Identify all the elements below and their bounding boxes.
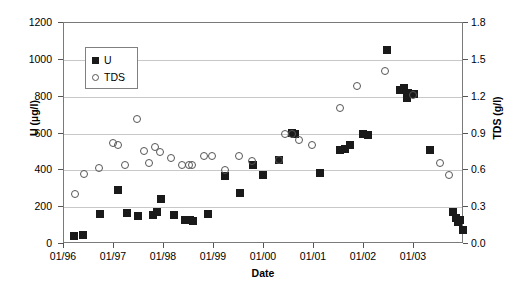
- data-point-u: [383, 46, 391, 54]
- data-point-u: [134, 212, 142, 220]
- y2-axis-tick: [463, 243, 468, 244]
- data-point-tds: [200, 152, 208, 160]
- data-point-tds: [71, 190, 79, 198]
- data-point-tds: [167, 154, 175, 162]
- open-circle-icon: [92, 74, 99, 81]
- y2-axis-tick-label: 0.0: [471, 238, 505, 248]
- data-point-u: [123, 209, 131, 217]
- data-point-tds: [436, 159, 444, 167]
- data-point-tds: [445, 171, 453, 179]
- gridline: [64, 207, 462, 208]
- data-point-tds: [188, 161, 196, 169]
- data-point-u: [259, 171, 267, 179]
- data-point-u: [157, 195, 165, 203]
- data-point-tds: [208, 152, 216, 160]
- scatter-chart: 020040060080010001200 0.00.30.60.91.21.5…: [0, 0, 526, 297]
- data-point-tds: [308, 141, 316, 149]
- data-point-u: [70, 232, 78, 240]
- data-point-tds: [336, 104, 344, 112]
- x-axis-tick-label: 01/03: [383, 251, 443, 262]
- y2-axis-tick: [463, 59, 468, 60]
- legend-item-u: U: [92, 52, 137, 69]
- x-axis-tick: [263, 243, 264, 248]
- data-point-tds: [248, 157, 256, 165]
- data-point-u: [79, 231, 87, 239]
- data-point-tds: [145, 159, 153, 167]
- data-point-u: [426, 146, 434, 154]
- y2-axis-tick: [463, 133, 468, 134]
- data-point-tds: [409, 91, 417, 99]
- x-axis-tick: [413, 243, 414, 248]
- gridline: [64, 134, 462, 135]
- data-point-tds: [288, 130, 296, 138]
- data-point-tds: [95, 164, 103, 172]
- data-point-tds: [235, 152, 243, 160]
- data-point-u: [96, 210, 104, 218]
- legend-label-u: U: [104, 55, 112, 66]
- x-axis-tick: [363, 243, 364, 248]
- x-axis-tick: [63, 243, 64, 248]
- data-point-u: [364, 131, 372, 139]
- data-point-u: [459, 226, 467, 234]
- data-point-u: [153, 208, 161, 216]
- data-point-u: [114, 186, 122, 194]
- data-point-tds: [275, 156, 283, 164]
- data-point-tds: [353, 82, 361, 90]
- y-axis-title: U (µg/l): [28, 58, 40, 178]
- data-point-tds: [133, 115, 141, 123]
- y2-axis-tick: [463, 96, 468, 97]
- data-point-u: [189, 217, 197, 225]
- data-point-tds: [80, 170, 88, 178]
- data-point-u: [204, 210, 212, 218]
- x-axis-title: Date: [63, 267, 463, 279]
- x-axis-tick: [163, 243, 164, 248]
- data-point-tds: [156, 148, 164, 156]
- x-axis-tick: [213, 243, 214, 248]
- y2-axis-tick-label: 1.8: [471, 17, 505, 27]
- y-axis-tick-label: 0: [8, 238, 52, 248]
- data-point-u: [346, 141, 354, 149]
- data-point-tds: [381, 67, 389, 75]
- data-point-tds: [114, 141, 122, 149]
- y2-axis-tick: [463, 206, 468, 207]
- x-axis-tick: [113, 243, 114, 248]
- y2-axis-tick: [463, 22, 468, 23]
- data-point-tds: [140, 147, 148, 155]
- y-axis-tick-label: 1200: [8, 17, 52, 27]
- y-axis-tick-label: 200: [8, 201, 52, 211]
- x-axis-tick: [313, 243, 314, 248]
- legend-label-tds: TDS: [104, 72, 125, 83]
- data-point-u: [170, 211, 178, 219]
- data-point-tds: [121, 161, 129, 169]
- data-point-u: [236, 189, 244, 197]
- y2-axis-tick-label: 0.3: [471, 201, 505, 211]
- data-point-u: [316, 169, 324, 177]
- y2-axis-tick: [463, 169, 468, 170]
- filled-square-icon: [92, 57, 99, 64]
- legend-item-tds: TDS: [92, 69, 137, 86]
- data-point-u: [456, 216, 464, 224]
- chart-legend: U TDS: [85, 47, 138, 89]
- data-point-tds: [295, 136, 303, 144]
- y2-axis-title: TDS (g/l): [491, 58, 503, 178]
